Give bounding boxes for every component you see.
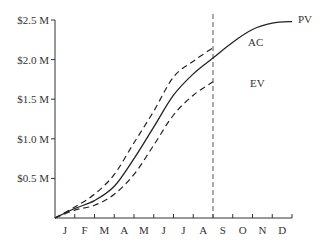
x-tick-label: D <box>278 224 286 236</box>
ac-label: AC <box>248 36 263 48</box>
pv-line <box>55 22 292 218</box>
y-tick-label: $2.0 M <box>17 54 49 66</box>
earned-value-chart: $0.5 M$1.0 M$1.5 M$2.0 M$2.5 M JFMAMJJAS… <box>0 0 326 247</box>
x-tick-label: F <box>82 224 88 236</box>
y-tick-label: $2.5 M <box>17 14 49 26</box>
x-tick-label: N <box>258 224 266 236</box>
x-tick-label: M <box>99 224 109 236</box>
x-tick-label: O <box>239 224 247 236</box>
x-tick-label: A <box>120 224 128 236</box>
ev-line <box>55 82 213 218</box>
y-tick-label: $1.5 M <box>17 93 49 105</box>
pv-label: PV <box>298 13 312 25</box>
x-axis: JFMAMJJASOND <box>55 214 292 236</box>
y-tick-label: $1.0 M <box>17 133 49 145</box>
x-tick-label: A <box>199 224 207 236</box>
x-tick-label: M <box>139 224 149 236</box>
ac-line <box>55 48 213 218</box>
x-tick-label: J <box>63 224 68 236</box>
x-tick-label: J <box>161 224 166 236</box>
x-tick-label: S <box>220 224 226 236</box>
ev-label: EV <box>250 77 265 89</box>
x-tick-label: J <box>181 224 186 236</box>
y-tick-label: $0.5 M <box>17 172 49 184</box>
y-axis: $0.5 M$1.0 M$1.5 M$2.0 M$2.5 M <box>17 14 55 218</box>
